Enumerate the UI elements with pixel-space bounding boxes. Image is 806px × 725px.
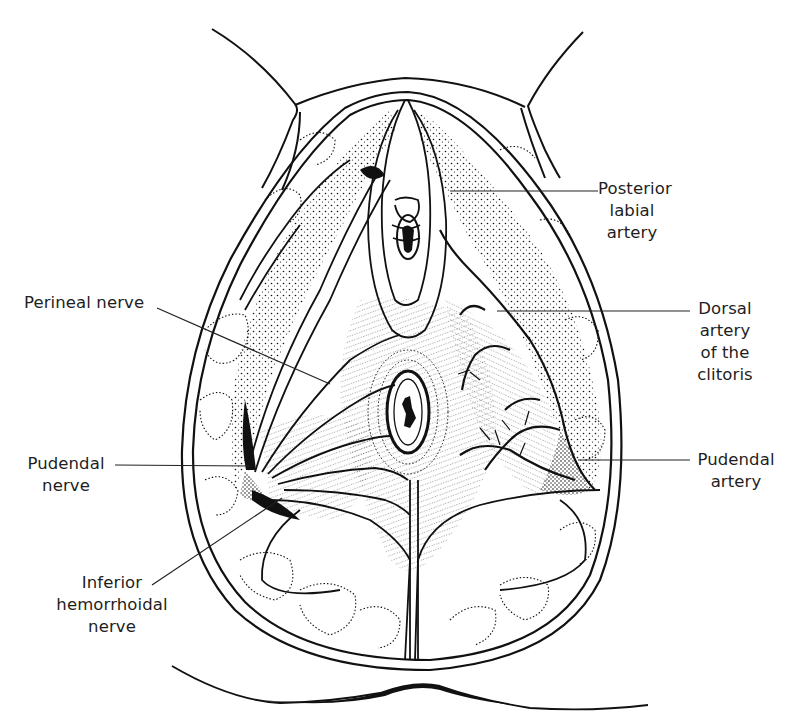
- label-line: nerve: [50, 616, 174, 638]
- label-perineal-nerve: Perineal nerve: [24, 292, 144, 314]
- gluteal-crease: [172, 666, 648, 709]
- label-line: artery: [598, 222, 666, 244]
- label-line: clitoris: [693, 364, 757, 386]
- label-line: nerve: [22, 475, 110, 497]
- label-dorsal-artery-clitoris: Dorsal artery of the clitoris: [693, 298, 757, 386]
- label-line: Dorsal: [693, 298, 757, 320]
- thigh-outlines: [212, 29, 583, 190]
- leader-pudendal-nerve: [115, 465, 250, 466]
- label-line: artery: [693, 320, 757, 342]
- label-line: Inferior: [50, 572, 174, 594]
- label-line: Perineal nerve: [24, 292, 144, 314]
- label-inferior-hemorrhoidal-nerve: Inferior hemorrhoidal nerve: [50, 572, 174, 638]
- label-line: hemorrhoidal: [50, 594, 174, 616]
- label-line: Pudendal: [22, 453, 110, 475]
- label-pudendal-nerve: Pudendal nerve: [22, 453, 110, 497]
- label-line: Posterior: [598, 178, 666, 200]
- label-posterior-labial-artery: Posterior labial artery: [598, 178, 666, 244]
- label-line: Pudendal: [694, 449, 778, 471]
- label-line: of the: [693, 342, 757, 364]
- label-line: labial: [598, 200, 666, 222]
- label-pudendal-artery: Pudendal artery: [694, 449, 778, 493]
- label-line: artery: [694, 471, 778, 493]
